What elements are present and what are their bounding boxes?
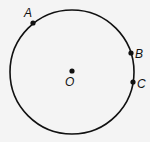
circle-diagram: O A B C xyxy=(0,0,150,142)
point-a xyxy=(30,20,35,25)
label-b: B xyxy=(135,47,143,61)
label-o: O xyxy=(65,75,74,89)
center-point-o xyxy=(69,68,74,73)
point-c xyxy=(130,79,135,84)
label-a: A xyxy=(23,6,32,20)
label-c: C xyxy=(137,77,146,91)
point-b xyxy=(128,50,133,55)
